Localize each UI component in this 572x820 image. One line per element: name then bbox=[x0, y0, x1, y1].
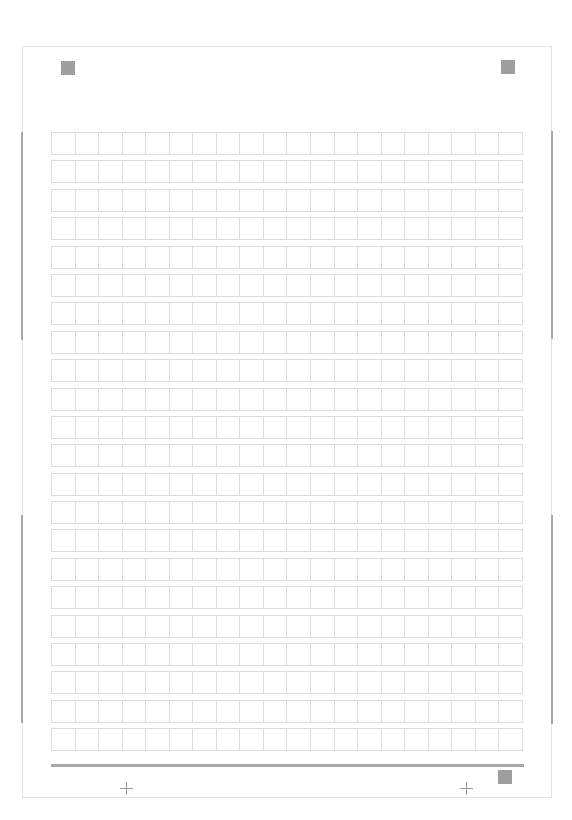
grid-cell bbox=[123, 218, 147, 239]
grid-cell bbox=[240, 587, 264, 608]
grid-cell bbox=[429, 161, 453, 182]
grid-cell bbox=[429, 672, 453, 693]
grid-cell bbox=[76, 701, 100, 722]
grid-cell bbox=[146, 701, 170, 722]
grid-cell bbox=[193, 389, 217, 410]
grid-cell bbox=[287, 332, 311, 353]
grid-cell bbox=[217, 474, 241, 495]
grid-cell bbox=[335, 303, 359, 324]
grid-cell bbox=[382, 190, 406, 211]
grid-cell bbox=[123, 332, 147, 353]
grid-cell bbox=[99, 275, 123, 296]
grid-cell bbox=[287, 275, 311, 296]
grid-cell bbox=[452, 502, 476, 523]
grid-cell bbox=[358, 672, 382, 693]
grid-cell bbox=[311, 275, 335, 296]
grid-cell bbox=[499, 218, 522, 239]
grid-cell bbox=[146, 672, 170, 693]
grid-cell bbox=[217, 701, 241, 722]
grid-cell bbox=[335, 672, 359, 693]
grid-cell bbox=[429, 530, 453, 551]
grid-cell bbox=[405, 616, 429, 637]
grid-cell bbox=[264, 587, 288, 608]
grid-cell bbox=[405, 530, 429, 551]
grid-cell bbox=[287, 474, 311, 495]
grid-cell bbox=[170, 587, 194, 608]
grid-cell bbox=[76, 389, 100, 410]
grid-cell bbox=[264, 559, 288, 580]
grid-cell bbox=[123, 389, 147, 410]
grid-cell bbox=[146, 190, 170, 211]
grid-cell bbox=[499, 445, 522, 466]
grid-cell bbox=[146, 360, 170, 381]
grid-cell bbox=[429, 559, 453, 580]
grid-cell bbox=[335, 559, 359, 580]
grid-cell bbox=[311, 417, 335, 438]
grid-cell bbox=[287, 701, 311, 722]
grid-cell bbox=[405, 474, 429, 495]
grid-cell bbox=[405, 247, 429, 268]
grid-cell bbox=[76, 729, 100, 750]
grid-cell bbox=[240, 644, 264, 665]
grid-cell bbox=[287, 587, 311, 608]
grid-cell bbox=[499, 502, 522, 523]
grid-row bbox=[51, 331, 523, 354]
grid-cell bbox=[146, 161, 170, 182]
grid-cell bbox=[382, 672, 406, 693]
grid-cell bbox=[476, 701, 500, 722]
grid-cell bbox=[52, 360, 76, 381]
grid-cell bbox=[123, 701, 147, 722]
grid-cell bbox=[264, 502, 288, 523]
grid-cell bbox=[429, 247, 453, 268]
grid-cell bbox=[358, 247, 382, 268]
grid-cell bbox=[52, 389, 76, 410]
grid-cell bbox=[405, 417, 429, 438]
grid-cell bbox=[405, 133, 429, 154]
grid-cell bbox=[382, 133, 406, 154]
grid-cell bbox=[52, 530, 76, 551]
grid-cell bbox=[287, 729, 311, 750]
grid-cell bbox=[476, 530, 500, 551]
grid-cell bbox=[405, 701, 429, 722]
grid-row bbox=[51, 671, 523, 694]
grid-cell bbox=[123, 502, 147, 523]
grid-cell bbox=[358, 530, 382, 551]
grid-cell bbox=[382, 559, 406, 580]
grid-cell bbox=[240, 133, 264, 154]
grid-cell bbox=[476, 474, 500, 495]
grid-cell bbox=[217, 332, 241, 353]
grid-cell bbox=[287, 190, 311, 211]
grid-cell bbox=[429, 360, 453, 381]
grid-cell bbox=[476, 559, 500, 580]
grid-cell bbox=[52, 133, 76, 154]
grid-cell bbox=[146, 133, 170, 154]
grid-cell bbox=[146, 417, 170, 438]
grid-cell bbox=[52, 701, 76, 722]
grid-cell bbox=[146, 559, 170, 580]
grid-cell bbox=[193, 616, 217, 637]
grid-cell bbox=[311, 644, 335, 665]
grid-cell bbox=[264, 445, 288, 466]
grid-cell bbox=[405, 729, 429, 750]
grid-cell bbox=[99, 729, 123, 750]
grid-cell bbox=[264, 303, 288, 324]
grid-cell bbox=[76, 133, 100, 154]
grid-cell bbox=[123, 275, 147, 296]
grid-cell bbox=[499, 701, 522, 722]
grid-cell bbox=[358, 133, 382, 154]
grid-cell bbox=[382, 474, 406, 495]
grid-cell bbox=[240, 474, 264, 495]
grid-cell bbox=[358, 587, 382, 608]
grid-row bbox=[51, 529, 523, 552]
grid-cell bbox=[476, 133, 500, 154]
grid-cell bbox=[217, 247, 241, 268]
grid-cell bbox=[217, 133, 241, 154]
grid-cell bbox=[287, 360, 311, 381]
grid-cell bbox=[146, 303, 170, 324]
grid-cell bbox=[193, 559, 217, 580]
grid-cell bbox=[123, 530, 147, 551]
grid-cell bbox=[99, 530, 123, 551]
grid-cell bbox=[335, 587, 359, 608]
grid-row bbox=[51, 274, 523, 297]
grid-cell bbox=[99, 672, 123, 693]
